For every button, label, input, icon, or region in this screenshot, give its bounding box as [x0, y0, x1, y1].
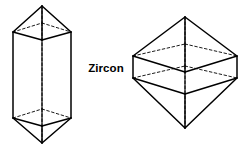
left-crystal-top-pyramid [13, 6, 71, 40]
right-crystal [133, 17, 237, 128]
left-crystal [13, 6, 71, 143]
figure-root: Zircon [0, 0, 246, 149]
mineral-label-zircon: Zircon [84, 61, 128, 75]
